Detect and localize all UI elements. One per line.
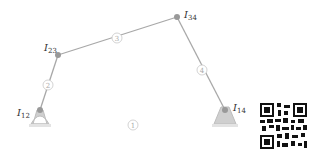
joint-I14 [222,107,228,113]
link-4 [177,17,225,110]
label-I14: I14 [232,102,246,115]
ground-base-left [29,124,51,127]
label-I23: I23 [43,42,57,55]
svg-text:1: 1 [131,122,135,130]
link-label-2: 2 [43,80,53,90]
svg-text:3: 3 [115,35,119,43]
link-label-1: 1 [128,120,138,130]
qr-code[interactable] [260,103,307,149]
label-I34: I34 [183,9,197,22]
link-label-4: 4 [197,65,207,75]
label-I12: I12 [16,107,30,120]
svg-text:4: 4 [200,67,205,75]
joint-I12 [37,107,43,113]
link-label-3: 3 [112,33,122,43]
svg-text:2: 2 [46,82,50,90]
joint-I34 [174,14,180,20]
ground-base-right [212,124,238,127]
linkage-diagram: I12 I23 I34 I14 2 3 4 1 [0,0,324,163]
